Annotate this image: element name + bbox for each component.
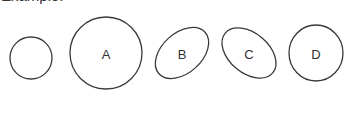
option-a[interactable]: A — [70, 17, 142, 89]
reference-circle-group — [10, 37, 52, 79]
label-c: C — [244, 47, 253, 62]
option-b[interactable]: B — [146, 17, 219, 88]
label-b: B — [178, 47, 187, 62]
label-d: D — [311, 47, 320, 62]
option-c[interactable]: C — [212, 18, 285, 88]
shape-diagram: A B C D — [0, 0, 355, 114]
label-a: A — [102, 47, 111, 62]
option-d[interactable]: D — [289, 25, 343, 81]
reference-circle — [10, 37, 52, 79]
